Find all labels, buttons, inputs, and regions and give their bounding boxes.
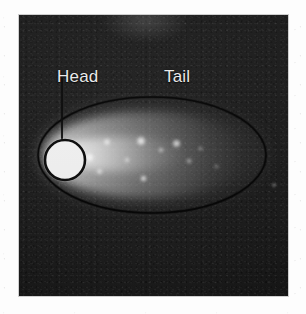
annotation-overlay <box>19 15 288 296</box>
tail-label: Tail <box>164 68 190 85</box>
head-circle-marker <box>45 140 85 180</box>
figure-root: Head Tail <box>0 0 306 314</box>
head-label: Head <box>57 68 98 85</box>
micrograph-panel: Head Tail <box>19 15 288 296</box>
